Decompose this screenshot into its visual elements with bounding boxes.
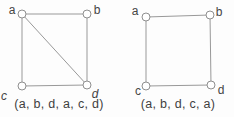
left-graph-edge-ad — [22, 14, 87, 85]
right-graph-vertex-d — [207, 81, 215, 89]
right-graph-vertex-label-a: a — [132, 4, 139, 18]
left-graph-vertex-d — [83, 81, 91, 89]
right-graph-vertex-label-c: c — [135, 84, 141, 98]
right-graph-vertex-c — [142, 82, 150, 90]
left-graph-vertex-label-b: b — [94, 3, 101, 17]
left-graph-vertex-label-a: a — [9, 3, 16, 17]
right-graph-edge-bd — [210, 15, 211, 85]
right-graph-caption: (a, b, d, c, a) — [141, 97, 216, 111]
right-graph-vertex-b — [206, 11, 214, 19]
left-graph-vertex-a — [18, 10, 26, 18]
left-graph-vertex-b — [83, 10, 91, 18]
left-graph-edge-cd — [22, 85, 87, 86]
left-graph-caption: (a, b, d, a, c, d) — [14, 97, 103, 111]
right-graph-vertex-label-b: b — [216, 5, 223, 19]
right-graph-vertex-label-d: d — [218, 83, 225, 97]
euler-path-figure: abcdabcd (a, b, d, a, c, d) (a, b, d, c,… — [0, 0, 234, 117]
right-graph-edge-ab — [146, 15, 210, 17]
left-graph-vertex-c — [18, 82, 26, 90]
right-graph-edge-cd — [146, 85, 211, 86]
left-graph-vertex-label-c: c — [1, 89, 7, 103]
right-graph-vertex-a — [142, 13, 150, 21]
